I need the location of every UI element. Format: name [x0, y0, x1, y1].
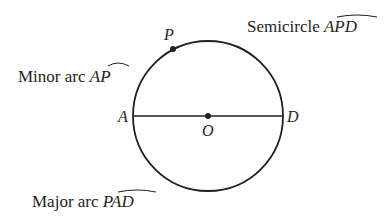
label-d: D: [286, 108, 299, 125]
caption-minor-arc-prefix: Minor arc: [18, 67, 90, 86]
caption-major-arc-prefix: Major arc: [32, 192, 103, 211]
point-p: [170, 46, 176, 52]
caption-major-arc: Major arc PAD: [32, 190, 156, 211]
center-point-o: [205, 113, 211, 119]
caption-major-arc-name: PAD: [102, 192, 135, 211]
svg-text:Minor arc AP: Minor arc AP: [18, 67, 111, 86]
caption-semicircle: Semicircle APD: [247, 15, 377, 36]
caption-semicircle-prefix: Semicircle: [247, 17, 324, 36]
caption-minor-arc: Minor arc AP: [18, 63, 129, 86]
svg-text:Semicircle APD: Semicircle APD: [247, 17, 358, 36]
label-p: P: [163, 26, 174, 43]
svg-text:Major arc PAD: Major arc PAD: [32, 192, 134, 211]
circle-arcs-diagram: P A O D Minor arc AP Semicircle APD Majo…: [0, 0, 392, 222]
arc-overline-icon: [108, 63, 129, 66]
caption-semicircle-name: APD: [323, 17, 358, 36]
label-o: O: [202, 122, 214, 139]
caption-minor-arc-name: AP: [89, 67, 111, 86]
label-a: A: [117, 108, 128, 125]
